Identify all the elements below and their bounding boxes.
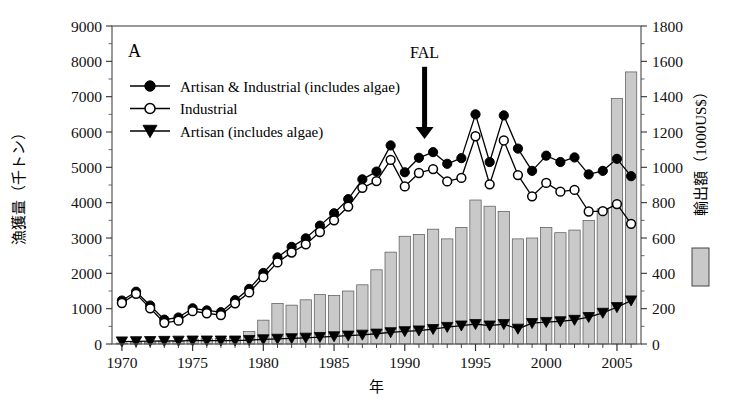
legend-label: Artisan (includes algae) [180, 124, 323, 141]
data-point-marker [499, 111, 508, 120]
x-tick-label: 1975 [177, 354, 208, 371]
x-axis-label: 年 [369, 379, 384, 395]
data-point-marker [118, 299, 127, 308]
data-point-marker [598, 166, 607, 175]
data-point-marker [428, 148, 437, 157]
x-tick-label: 1990 [389, 354, 420, 371]
data-point-marker [570, 153, 579, 162]
y-tick-label: 1000 [71, 300, 102, 317]
y-tick-label: 7000 [71, 88, 102, 105]
annotation-label: FAL [410, 44, 439, 61]
y2-tick-label: 1000 [652, 159, 683, 176]
data-point-marker [160, 318, 169, 327]
bar-legend-swatch [692, 248, 709, 286]
data-point-marker [542, 151, 551, 160]
x-tick-label: 1985 [319, 354, 350, 371]
data-point-marker [202, 309, 211, 318]
data-point-marker [570, 186, 579, 195]
data-point-marker [429, 165, 438, 174]
bar-legend-swatch [692, 248, 709, 286]
data-point-marker [584, 207, 593, 216]
panel-label: A [128, 41, 141, 61]
y2-tick-label: 1800 [652, 18, 683, 35]
y2-tick-label: 600 [652, 230, 676, 247]
x-tick-label: 1995 [460, 354, 491, 371]
data-point-marker [443, 177, 452, 186]
y2-tick-label: 1200 [652, 124, 683, 141]
data-point-marker [514, 171, 523, 180]
data-point-marker [132, 289, 141, 298]
x-tick-label: 1980 [248, 354, 279, 371]
data-point-marker [372, 167, 381, 176]
y2-tick-label: 800 [652, 194, 676, 211]
data-point-marker [499, 136, 508, 145]
data-point-marker [316, 228, 325, 237]
export-bar [569, 230, 580, 344]
data-point-marker [513, 144, 522, 153]
data-point-marker [485, 180, 494, 189]
data-point-marker [372, 177, 381, 186]
y-tick-label: 5000 [71, 159, 102, 176]
data-point-marker [598, 207, 607, 216]
y-tick-label: 4000 [71, 194, 102, 211]
y2-tick-label: 1600 [652, 53, 683, 70]
data-point-marker [556, 157, 565, 166]
data-point-marker [627, 219, 636, 228]
y-tick-label: 3000 [71, 230, 102, 247]
data-point-marker [145, 104, 155, 114]
data-point-marker [612, 154, 621, 163]
x-tick-label: 1970 [106, 354, 137, 371]
data-point-marker [415, 169, 424, 178]
data-point-marker [301, 240, 310, 249]
data-point-marker [443, 159, 452, 168]
data-point-marker [174, 316, 183, 325]
y2-tick-label: 0 [652, 336, 660, 353]
data-point-marker [471, 110, 480, 119]
y2-tick-label: 400 [652, 265, 676, 282]
data-point-marker [485, 157, 494, 166]
data-point-marker [613, 200, 622, 209]
data-point-marker [400, 168, 409, 177]
fishery-catch-and-export-chart: 0100020003000400050006000700080009000020… [0, 0, 743, 402]
legend-label: Industrial [180, 101, 238, 117]
data-point-marker [386, 156, 395, 165]
y2-axis-label: 輸出額（1000US$） [693, 84, 709, 216]
data-point-marker [584, 170, 593, 179]
data-point-marker [330, 216, 339, 225]
y-axis-label: 漁獲量（千トン） [11, 125, 27, 245]
data-point-marker [188, 307, 197, 316]
data-point-marker [217, 311, 226, 320]
y2-tick-label: 1400 [652, 88, 683, 105]
y-tick-label: 6000 [71, 124, 102, 141]
data-point-marker [287, 248, 296, 257]
data-point-marker [259, 273, 268, 282]
data-point-marker [528, 192, 537, 201]
y-tick-label: 0 [94, 336, 102, 353]
export-bar [583, 220, 594, 344]
data-point-marker [273, 258, 282, 267]
data-point-marker [556, 187, 565, 196]
data-point-marker [386, 141, 395, 150]
export-bar [597, 209, 608, 344]
data-point-marker [146, 304, 155, 313]
data-point-marker [414, 153, 423, 162]
data-point-marker [471, 132, 480, 141]
data-point-marker [358, 183, 367, 192]
data-point-marker [358, 175, 367, 184]
data-point-marker [245, 288, 254, 297]
data-point-marker [457, 154, 466, 163]
data-point-marker [627, 172, 636, 181]
data-point-marker [145, 81, 155, 91]
y-tick-label: 8000 [71, 53, 102, 70]
x-tick-label: 2005 [601, 354, 632, 371]
y-tick-label: 9000 [71, 18, 102, 35]
y2-tick-label: 200 [652, 300, 676, 317]
legend-label: Artisan & Industrial (includes algae) [180, 79, 400, 96]
data-point-marker [400, 182, 409, 191]
y-tick-label: 2000 [71, 265, 102, 282]
data-point-marker [527, 166, 536, 175]
data-point-marker [542, 178, 551, 187]
data-point-marker [344, 202, 353, 211]
figure-panel-a: 0100020003000400050006000700080009000020… [0, 0, 743, 402]
data-point-marker [231, 299, 240, 308]
